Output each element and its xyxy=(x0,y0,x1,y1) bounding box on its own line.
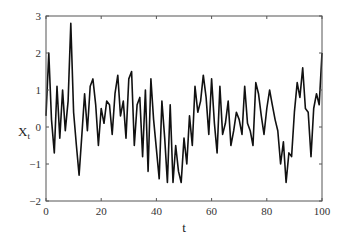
series-line xyxy=(46,23,322,182)
y-axis-label-subscript: t xyxy=(27,131,30,141)
y-tick-label: 2 xyxy=(36,47,42,59)
line-chart: 020406080100−2−10123 t Xt xyxy=(0,0,345,241)
x-axis-label: t xyxy=(182,220,186,235)
y-tick-label: 1 xyxy=(36,84,42,96)
y-tick-label: −2 xyxy=(29,195,41,207)
x-tick-label: 60 xyxy=(206,205,218,217)
y-tick-label: 3 xyxy=(36,10,42,22)
plot-area xyxy=(46,23,322,182)
x-tick-label: 100 xyxy=(314,205,331,217)
x-tick-label: 80 xyxy=(261,205,273,217)
plot-frame xyxy=(46,16,322,201)
x-tick-label: 0 xyxy=(43,205,49,217)
y-axis-label: Xt xyxy=(18,124,30,141)
y-tick-label: −1 xyxy=(29,158,41,170)
y-tick-label: 0 xyxy=(36,121,42,133)
x-tick-label: 40 xyxy=(151,205,163,217)
x-tick-label: 20 xyxy=(96,205,108,217)
